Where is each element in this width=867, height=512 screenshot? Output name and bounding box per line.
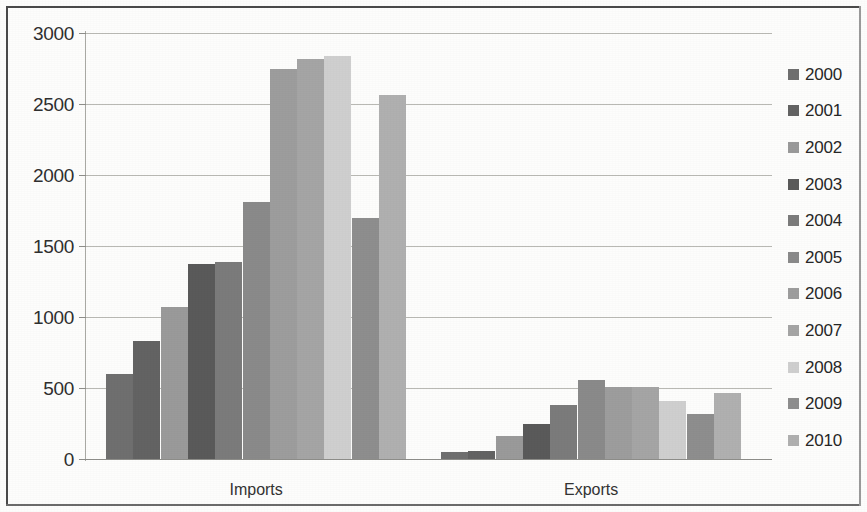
chart-legend: 2000200120022003200420052006200720082009… (788, 56, 864, 459)
legend-swatch-icon (788, 398, 799, 409)
bar (352, 218, 379, 459)
legend-swatch-icon (788, 325, 799, 336)
y-axis-tick (79, 246, 86, 247)
y-axis-tick-label: 2500 (4, 95, 74, 114)
bar (106, 374, 133, 459)
legend-swatch-icon (788, 362, 799, 373)
bar (270, 69, 297, 460)
y-axis-tick-label: 2000 (4, 166, 74, 185)
legend-item-label: 2005 (805, 249, 842, 266)
bar (523, 424, 550, 459)
legend-item[interactable]: 2008 (788, 349, 864, 386)
legend-item-label: 2000 (805, 66, 842, 83)
y-axis-tick (79, 317, 86, 318)
y-axis-tick (79, 175, 86, 176)
legend-item[interactable]: 2001 (788, 93, 864, 130)
bar (687, 414, 714, 459)
legend-swatch-icon (788, 215, 799, 226)
gridline (86, 33, 772, 34)
bar (468, 451, 495, 459)
legend-swatch-icon (788, 142, 799, 153)
legend-swatch-icon (788, 252, 799, 263)
bar (133, 341, 160, 459)
legend-item[interactable]: 2007 (788, 312, 864, 349)
legend-item-label: 2009 (805, 395, 842, 412)
legend-item[interactable]: 2005 (788, 239, 864, 276)
legend-item[interactable]: 2003 (788, 166, 864, 203)
y-axis-tick (79, 33, 86, 34)
legend-item-label: 2001 (805, 102, 842, 119)
gridline (86, 104, 772, 105)
legend-item-label: 2008 (805, 359, 842, 376)
legend-swatch-icon (788, 179, 799, 190)
bar (714, 393, 741, 459)
bar (379, 95, 406, 459)
legend-swatch-icon (788, 435, 799, 446)
bar (659, 401, 686, 459)
y-axis-tick-label: 1000 (4, 308, 74, 327)
y-axis-tick (79, 104, 86, 105)
bar (578, 380, 605, 459)
legend-swatch-icon (788, 69, 799, 80)
legend-item-label: 2002 (805, 139, 842, 156)
legend-swatch-icon (788, 288, 799, 299)
x-axis-line (86, 459, 772, 460)
legend-item[interactable]: 2009 (788, 385, 864, 422)
legend-item-label: 2003 (805, 176, 842, 193)
x-axis-category-label: Exports (441, 481, 741, 499)
bar (161, 307, 188, 459)
bar (632, 387, 659, 459)
legend-item-label: 2006 (805, 285, 842, 302)
bar (297, 59, 324, 459)
y-axis-tick-label: 3000 (4, 24, 74, 43)
bar (441, 452, 468, 459)
legend-item-label: 2010 (805, 432, 842, 449)
y-axis-tick-label: 1500 (4, 237, 74, 256)
bar (215, 262, 242, 459)
legend-item[interactable]: 2002 (788, 129, 864, 166)
y-axis-tick (79, 459, 86, 460)
bar (605, 387, 632, 459)
legend-item[interactable]: 2000 (788, 56, 864, 93)
bar (550, 405, 577, 459)
y-axis-tick-label: 0 (4, 450, 74, 469)
bar (324, 56, 351, 459)
x-axis-category-label: Imports (106, 481, 406, 499)
legend-item[interactable]: 2004 (788, 202, 864, 239)
gridline (86, 246, 772, 247)
legend-item-label: 2007 (805, 322, 842, 339)
bar (188, 264, 215, 459)
chart-figure: 050010001500200025003000 ImportsExports … (0, 0, 867, 512)
figure-border-top (6, 6, 861, 8)
legend-swatch-icon (788, 105, 799, 116)
y-axis-tick (79, 388, 86, 389)
legend-item-label: 2004 (805, 212, 842, 229)
legend-item[interactable]: 2010 (788, 422, 864, 459)
bar (243, 202, 270, 459)
legend-item[interactable]: 2006 (788, 276, 864, 313)
y-axis-tick-label: 500 (4, 379, 74, 398)
gridline (86, 175, 772, 176)
bar (496, 436, 523, 459)
figure-border-bottom (6, 504, 861, 506)
y-axis-tick-labels: 050010001500200025003000 (4, 0, 74, 512)
